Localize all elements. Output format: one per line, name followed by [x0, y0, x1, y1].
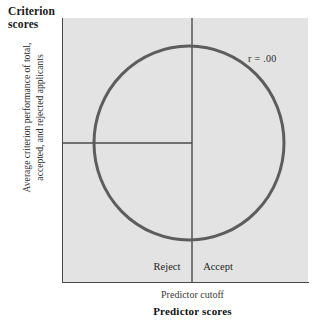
correlation-annotation: r = .00 — [248, 53, 277, 64]
y-axis-label-line-1: Average criterion performance of total, — [21, 43, 32, 193]
predictor-cutoff-caption: Predictor cutoff — [125, 289, 260, 300]
y-axis-label-line-2: accepted, and rejected applicants — [33, 23, 46, 213]
x-axis-label: Predictor scores — [120, 305, 265, 317]
accept-region-label: Accept — [196, 261, 240, 272]
y-axis-label: Average criterion performance of total, … — [21, 23, 46, 213]
reject-region-label: Reject — [146, 261, 188, 272]
criterion-heading-line-1: Criterion — [8, 5, 55, 17]
validity-diagram-figure: Criterion scores Average criterion perfo… — [0, 0, 331, 329]
plot-graphics — [0, 0, 331, 329]
